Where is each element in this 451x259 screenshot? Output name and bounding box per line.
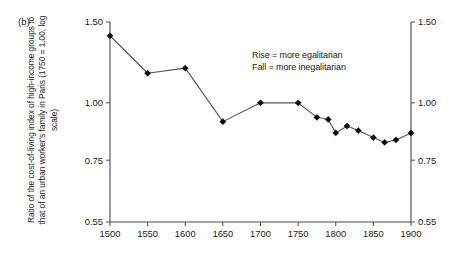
y-tick-label-right: 0.75: [418, 155, 436, 166]
y-axis-tick-labels-left: 0.550.751.001.50: [85, 16, 103, 227]
data-point-marker: [408, 130, 414, 136]
y-axis-tick-labels-right: 0.550.751.001.50: [418, 16, 436, 227]
x-tick-label: 1500: [100, 228, 121, 239]
data-point-marker: [325, 116, 331, 122]
y-tick-label-left: 0.55: [85, 216, 103, 227]
data-point-marker: [333, 130, 339, 136]
x-tick-label: 1800: [325, 228, 346, 239]
y-axis-label: Ratio of the cost-of-living index of hig…: [26, 14, 60, 226]
x-tick-label: 1900: [401, 228, 422, 239]
data-point-marker: [344, 123, 350, 129]
x-tick-label: 1550: [137, 228, 158, 239]
x-axis-tick-labels: 150015501600165017001750180018501900: [100, 228, 422, 239]
y-tick-label-left: 1.50: [85, 16, 103, 27]
x-tick-label: 1750: [288, 228, 309, 239]
x-tick-label: 1600: [175, 228, 196, 239]
annotation-line-rise: Rise = more egalitarian: [252, 50, 346, 62]
y-tick-label-right: 1.50: [418, 16, 436, 27]
data-point-marker: [393, 137, 399, 143]
x-tick-label: 1700: [250, 228, 271, 239]
data-point-marker: [257, 100, 263, 106]
y-axis-label-container: Ratio of the cost-of-living index of hig…: [26, 14, 78, 226]
data-point-marker: [355, 127, 361, 133]
data-point-marker: [382, 139, 388, 145]
x-tick-label: 1850: [363, 228, 384, 239]
y-tick-label-right: 1.00: [418, 97, 436, 108]
y-tick-label-left: 0.75: [85, 155, 103, 166]
chart-annotation: Rise = more egalitarian Fall = more ineg…: [252, 50, 346, 73]
figure-panel-b: (b) Ratio of the cost-of-living index of…: [0, 0, 451, 259]
x-tick-label: 1650: [212, 228, 233, 239]
data-point-marker: [370, 134, 376, 140]
y-tick-label-left: 1.00: [85, 97, 103, 108]
annotation-line-fall: Fall = more inegalitarian: [252, 62, 346, 74]
y-tick-label-right: 0.55: [418, 216, 436, 227]
